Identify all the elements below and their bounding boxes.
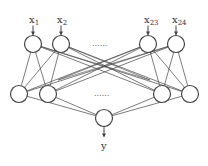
edges [19,44,190,118]
hidden-ellipsis: ...... [94,89,109,98]
input-neuron [140,36,157,53]
input-neuron [25,36,42,53]
neural-network-diagram: x1x2x23x24y............ [0,0,208,166]
input-node-in24: x24 [168,14,188,53]
hidden-neuron [11,86,28,103]
input-node-in1: x1 [25,14,42,53]
input-label: x24 [172,14,187,27]
input-label-subscript: 24 [178,19,187,27]
input-node-in2: x2 [53,14,70,53]
network-graph: x1x2x23x24y............ [0,0,208,166]
edge-input-hidden [48,44,176,94]
edge-hidden-output [104,94,190,118]
edge-input-hidden [33,44,150,80]
input-label-subscript: 23 [150,19,159,27]
output-neuron [96,110,113,127]
edge-hidden-output [104,94,162,118]
input-label-subscript: 1 [35,19,39,27]
output-label: y [100,140,107,151]
edge-hidden-output [19,94,104,118]
hidden-neuron [182,86,199,103]
input-ellipsis: ...... [92,39,107,48]
arrow-down-icon [102,134,106,138]
output-node: y [96,110,113,151]
input-label-subscript: 2 [63,19,67,27]
input-neuron [53,36,70,53]
edge-input-hidden [61,44,190,94]
input-label: x1 [29,14,39,27]
input-label: x2 [57,14,67,27]
input-label: x23 [144,14,159,27]
hidden-neuron [40,86,57,103]
input-node-in23: x23 [140,14,159,53]
input-neuron [168,36,185,53]
hidden-neuron [154,86,171,103]
